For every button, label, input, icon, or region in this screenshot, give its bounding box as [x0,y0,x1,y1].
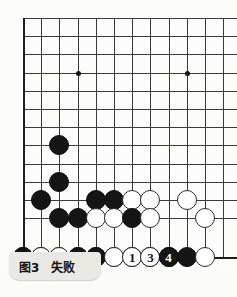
figure-caption-text: 图3 失败 [19,258,75,275]
stone-white[interactable] [177,190,197,210]
stone-white[interactable] [104,247,124,267]
grid-line-vertical [187,18,188,257]
stone-black[interactable] [104,190,124,210]
move-number: 1 [129,250,136,263]
stone-white[interactable] [140,190,160,210]
star-point [185,71,190,76]
stone-white[interactable] [195,208,215,228]
stone-white[interactable] [140,208,160,228]
move-number: 4 [165,250,172,263]
grid-line-vertical [169,18,170,257]
stone-white[interactable] [104,208,124,228]
move-stone-4[interactable]: 4 [159,247,179,267]
stone-black[interactable] [31,190,51,210]
stone-white[interactable] [195,247,215,267]
move-stone-1[interactable]: 1 [122,247,142,267]
stone-white[interactable] [122,190,142,210]
stone-black[interactable] [49,208,69,228]
go-board[interactable]: 58762134 [0,0,237,266]
grid-line-vertical [23,18,25,257]
move-stone-3[interactable]: 3 [140,247,160,267]
stone-black[interactable] [177,247,197,267]
stone-black[interactable] [68,208,88,228]
grid-line-vertical [41,18,42,257]
move-number: 3 [147,250,154,263]
stone-black[interactable] [122,208,142,228]
stone-white[interactable] [86,208,106,228]
go-diagram-figure: 58762134 图3 失败 [0,0,237,297]
stone-black[interactable] [86,190,106,210]
stone-black[interactable] [49,135,69,155]
star-point [76,71,81,76]
stone-black[interactable] [49,172,69,192]
grid-line-vertical [223,18,224,257]
figure-caption: 图3 失败 [9,252,101,280]
